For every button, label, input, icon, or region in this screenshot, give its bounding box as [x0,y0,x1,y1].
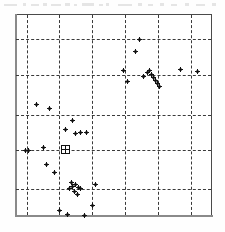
gridline-horizontal [16,75,211,76]
plot-edge-bottom [15,215,213,217]
data-point-highlighted [61,145,70,154]
gridline-horizontal [16,115,211,116]
gridline-horizontal [16,150,211,151]
gridline-horizontal [16,39,211,40]
scan-artifact-band [0,0,225,12]
scatter-plot-figure [0,0,225,232]
gridline-horizontal [16,189,211,190]
